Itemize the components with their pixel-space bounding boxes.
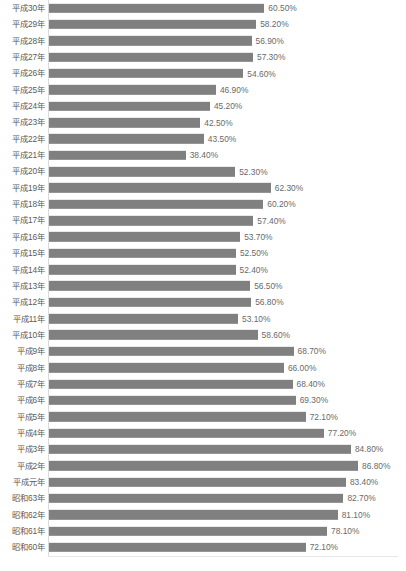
bar[interactable] bbox=[49, 265, 236, 275]
bar[interactable] bbox=[49, 69, 243, 79]
bar[interactable] bbox=[49, 510, 338, 520]
bar[interactable] bbox=[49, 249, 236, 259]
bar-group: 62.30% bbox=[49, 180, 303, 196]
bar-group: 56.80% bbox=[49, 294, 284, 310]
category-label: 平成27年 bbox=[0, 53, 45, 61]
bar-chart: 平成30年60.50%平成29年58.20%平成28年56.90%平成27年57… bbox=[0, 0, 406, 571]
value-label: 60.50% bbox=[268, 4, 296, 12]
bar[interactable] bbox=[49, 52, 253, 62]
bar[interactable] bbox=[49, 379, 293, 389]
bar[interactable] bbox=[49, 36, 252, 46]
category-label: 平成26年 bbox=[0, 69, 45, 77]
category-label: 平成15年 bbox=[0, 249, 45, 257]
bar-group: 68.40% bbox=[49, 376, 325, 392]
bar[interactable] bbox=[49, 543, 306, 553]
bar[interactable] bbox=[49, 118, 200, 128]
bar-row: 平成24年45.20% bbox=[0, 98, 406, 114]
bar[interactable] bbox=[49, 396, 296, 406]
bar-row: 平成15年52.50% bbox=[0, 245, 406, 261]
bar[interactable] bbox=[49, 151, 186, 161]
bar-group: 83.40% bbox=[49, 474, 378, 490]
value-label: 62.30% bbox=[275, 184, 303, 192]
category-label: 平成22年 bbox=[0, 135, 45, 143]
bar-row: 平成6年69.30% bbox=[0, 392, 406, 408]
bar-row-list: 平成30年60.50%平成29年58.20%平成28年56.90%平成27年57… bbox=[0, 0, 406, 556]
value-label: 82.70% bbox=[347, 494, 375, 502]
bar-group: 38.40% bbox=[49, 147, 218, 163]
bar-group: 52.40% bbox=[49, 262, 268, 278]
bar-row: 平成25年46.90% bbox=[0, 82, 406, 98]
value-label: 66.00% bbox=[288, 364, 316, 372]
category-label: 昭和61年 bbox=[0, 527, 45, 535]
bar-group: 52.30% bbox=[49, 163, 268, 179]
category-label: 平成10年 bbox=[0, 331, 45, 339]
value-label: 86.80% bbox=[362, 462, 390, 470]
bar-group: 53.10% bbox=[49, 311, 270, 327]
bar[interactable] bbox=[49, 428, 324, 438]
bar-group: 81.10% bbox=[49, 507, 370, 523]
bar-row: 平成12年56.80% bbox=[0, 294, 406, 310]
bar[interactable] bbox=[49, 232, 240, 242]
bar-row: 平成8年66.00% bbox=[0, 360, 406, 376]
bar-group: 54.60% bbox=[49, 65, 276, 81]
bar-row: 平成7年68.40% bbox=[0, 376, 406, 392]
bar-row: 昭和63年82.70% bbox=[0, 490, 406, 506]
bar[interactable] bbox=[49, 183, 271, 193]
bar-row: 平成3年84.80% bbox=[0, 441, 406, 457]
bar-group: 42.50% bbox=[49, 114, 233, 130]
bar[interactable] bbox=[49, 477, 346, 487]
category-label: 平成6年 bbox=[0, 396, 45, 404]
bar[interactable] bbox=[49, 526, 327, 536]
bar[interactable] bbox=[49, 3, 264, 13]
category-label: 平成11年 bbox=[0, 315, 45, 323]
category-label: 昭和63年 bbox=[0, 494, 45, 502]
bar[interactable] bbox=[49, 85, 216, 95]
bar-row: 昭和62年81.10% bbox=[0, 507, 406, 523]
bar-row: 昭和61年78.10% bbox=[0, 523, 406, 539]
category-label: 昭和60年 bbox=[0, 543, 45, 551]
value-label: 46.90% bbox=[220, 86, 248, 94]
bar[interactable] bbox=[49, 461, 358, 471]
category-label: 平成21年 bbox=[0, 151, 45, 159]
bar[interactable] bbox=[49, 347, 294, 357]
bar[interactable] bbox=[49, 134, 204, 144]
category-label: 平成28年 bbox=[0, 37, 45, 45]
bar-group: 58.20% bbox=[49, 16, 289, 32]
bar-row: 平成27年57.30% bbox=[0, 49, 406, 65]
category-label: 平成7年 bbox=[0, 380, 45, 388]
bar[interactable] bbox=[49, 330, 258, 340]
bar[interactable] bbox=[49, 20, 256, 30]
value-label: 72.10% bbox=[310, 413, 338, 421]
bar-group: 46.90% bbox=[49, 82, 248, 98]
bar-row: 平成14年52.40% bbox=[0, 262, 406, 278]
category-label: 平成9年 bbox=[0, 347, 45, 355]
bar[interactable] bbox=[49, 412, 306, 422]
category-label: 平成30年 bbox=[0, 4, 45, 12]
category-label: 平成23年 bbox=[0, 118, 45, 126]
bar-row: 平成23年42.50% bbox=[0, 114, 406, 130]
bar[interactable] bbox=[49, 167, 235, 177]
bar[interactable] bbox=[49, 101, 210, 111]
bar[interactable] bbox=[49, 200, 263, 210]
category-label: 平成5年 bbox=[0, 413, 45, 421]
category-label: 平成20年 bbox=[0, 167, 45, 175]
bar-row: 平成16年53.70% bbox=[0, 229, 406, 245]
bar-group: 77.20% bbox=[49, 425, 356, 441]
value-label: 58.20% bbox=[260, 20, 288, 28]
category-label: 平成16年 bbox=[0, 233, 45, 241]
bar[interactable] bbox=[49, 363, 284, 373]
bar[interactable] bbox=[49, 445, 351, 455]
value-label: 72.10% bbox=[310, 543, 338, 551]
value-label: 78.10% bbox=[331, 527, 359, 535]
bar[interactable] bbox=[49, 494, 343, 504]
bar-row: 平成2年86.80% bbox=[0, 458, 406, 474]
value-label: 81.10% bbox=[342, 511, 370, 519]
value-label: 68.70% bbox=[298, 347, 326, 355]
bar-group: 72.10% bbox=[49, 409, 338, 425]
bar-row: 平成26年54.60% bbox=[0, 65, 406, 81]
bar[interactable] bbox=[49, 281, 250, 291]
bar[interactable] bbox=[49, 314, 238, 324]
bar[interactable] bbox=[49, 298, 251, 308]
bar-group: 53.70% bbox=[49, 229, 273, 245]
bar[interactable] bbox=[49, 216, 253, 226]
